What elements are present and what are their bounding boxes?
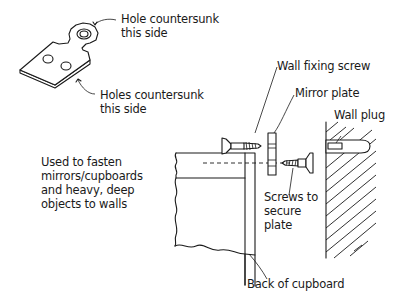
label-usage-note: Used to fasten mirrors/cupboards and hea… — [41, 155, 143, 211]
label-back-of-cupboard: Back of cupboard — [247, 277, 344, 291]
leader-holes-countersunk — [78, 80, 95, 94]
cupboard — [175, 153, 255, 286]
label-holes-countersunk: Holes countersunk this side — [100, 88, 204, 116]
label-mirror-plate: Mirror plate — [295, 86, 359, 100]
leader-mirror-plate — [274, 95, 294, 133]
label-wall-plug: Wall plug — [334, 108, 385, 122]
label-wall-fixing-screw: Wall fixing screw — [277, 59, 370, 73]
mirror-plate-side — [268, 133, 276, 175]
diagram-drawing — [0, 0, 404, 303]
wall-fixing-screw — [222, 138, 261, 154]
leader-hole-countersunk — [95, 19, 116, 24]
mirror-plate-diagram: Hole countersunk this side Holes counter… — [0, 0, 404, 303]
leader-back-of-cupboard — [249, 254, 267, 279]
wall-plug — [326, 136, 370, 153]
label-screws-to-secure-plate: Screws to secure plate — [264, 190, 318, 232]
label-hole-countersunk: Hole countersunk this side — [121, 12, 219, 40]
leader-wall-fixing-screw — [255, 67, 277, 133]
mirror-plate-perspective — [20, 23, 98, 88]
plate-securing-screw — [282, 153, 313, 173]
